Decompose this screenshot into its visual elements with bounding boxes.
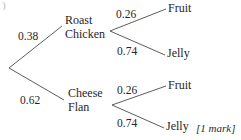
tree-diagram-figure: ) Roast Chicken Cheese Flan Fruit Jelly … <box>0 0 241 140</box>
node-cheese-flan-line1: Cheese <box>68 87 103 101</box>
probability-roast-chicken: 0.38 <box>18 30 38 43</box>
probability-chicken-jelly: 0.74 <box>117 45 137 58</box>
probability-flan-fruit: 0.26 <box>117 84 137 97</box>
outcome-fruit-bottom: Fruit <box>168 79 191 92</box>
probability-chicken-fruit: 0.26 <box>116 8 136 21</box>
marks-annotation: [1 mark] <box>196 122 235 135</box>
outcome-fruit-top: Fruit <box>168 2 191 15</box>
probability-flan-jelly: 0.74 <box>117 117 137 130</box>
outcome-jelly-bottom: Jelly <box>166 120 189 133</box>
node-roast-chicken-line2: Chicken <box>65 28 105 42</box>
outcome-jelly-top: Jelly <box>167 47 190 60</box>
node-cheese-flan: Cheese Flan <box>68 87 103 114</box>
probability-cheese-flan: 0.62 <box>20 94 40 107</box>
node-roast-chicken-line1: Roast <box>65 14 105 28</box>
node-cheese-flan-line2: Flan <box>68 101 103 115</box>
node-roast-chicken: Roast Chicken <box>65 14 105 41</box>
